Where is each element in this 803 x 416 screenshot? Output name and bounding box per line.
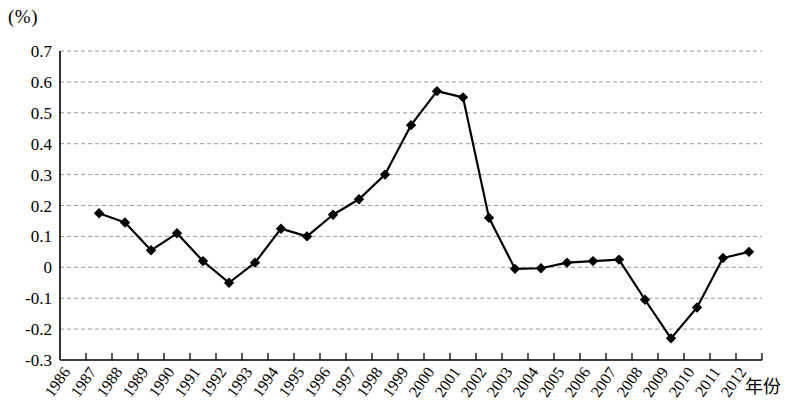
y-tick-label: -0.1 — [25, 289, 52, 308]
x-tick-label: 1990 — [145, 364, 177, 400]
x-tick-label: 2008 — [613, 364, 645, 400]
data-point-marker — [458, 92, 468, 102]
x-tick-label: 2009 — [639, 364, 671, 400]
data-point-marker — [484, 213, 494, 223]
x-tick-label: 1988 — [93, 364, 125, 400]
y-tick-label: 0.2 — [31, 197, 52, 216]
y-tick-label: 0.1 — [31, 227, 52, 246]
y-tick-label: 0.5 — [31, 104, 52, 123]
data-series-line — [99, 91, 749, 338]
x-tick-label: 1998 — [353, 364, 385, 400]
x-axis-ticks — [86, 353, 762, 360]
y-tick-label: 0.4 — [31, 135, 53, 154]
x-tick-label: 2011 — [692, 364, 724, 399]
y-axis-tick-labels: 0.70.60.50.40.30.20.10-0.1-0.2-0.3 — [25, 42, 52, 370]
x-tick-label: 1987 — [67, 364, 99, 400]
x-tick-label: 1997 — [327, 364, 359, 400]
x-axis-title: 年份 — [745, 372, 781, 398]
x-tick-label: 2003 — [483, 364, 515, 400]
x-tick-label: 2004 — [509, 364, 541, 400]
x-tick-label: 1994 — [249, 364, 281, 400]
x-tick-label: 2001 — [431, 364, 463, 400]
data-point-marker — [718, 253, 728, 263]
x-tick-label: 1993 — [223, 364, 255, 400]
x-axis-tick-labels: 1986198719881989199019911992199319941995… — [41, 364, 749, 400]
x-tick-label: 1991 — [171, 364, 203, 400]
data-point-marker — [588, 256, 598, 266]
x-tick-label: 1996 — [301, 364, 333, 400]
chart-canvas: 0.70.60.50.40.30.20.10-0.1-0.2-0.3 19861… — [0, 0, 803, 416]
x-tick-label: 2002 — [457, 364, 489, 400]
y-tick-label: 0.6 — [31, 73, 52, 92]
data-series-markers — [94, 86, 754, 344]
y-tick-label: -0.3 — [25, 351, 52, 370]
x-tick-label: 2000 — [405, 364, 437, 400]
y-tick-label: -0.2 — [25, 320, 52, 339]
data-point-marker — [536, 263, 546, 273]
x-tick-label: 2005 — [535, 364, 567, 400]
x-tick-label: 1995 — [275, 364, 307, 400]
x-tick-label: 1999 — [379, 364, 411, 400]
gridlines — [60, 51, 762, 329]
y-tick-label: 0.7 — [31, 42, 53, 61]
y-tick-label: 0.3 — [31, 166, 52, 185]
data-point-marker — [510, 264, 520, 274]
x-tick-label: 1992 — [197, 364, 229, 400]
x-tick-label: 2010 — [665, 364, 697, 400]
data-point-marker — [562, 257, 572, 267]
y-tick-label: 0 — [44, 258, 53, 277]
data-point-marker — [94, 208, 104, 218]
data-point-marker — [744, 247, 754, 257]
line-chart: (%) 0.70.60.50.40.30.20.10-0.1-0.2-0.3 1… — [0, 0, 803, 416]
x-tick-label: 2006 — [561, 364, 593, 400]
x-tick-label: 2007 — [587, 364, 619, 400]
x-tick-label: 1989 — [119, 364, 151, 400]
